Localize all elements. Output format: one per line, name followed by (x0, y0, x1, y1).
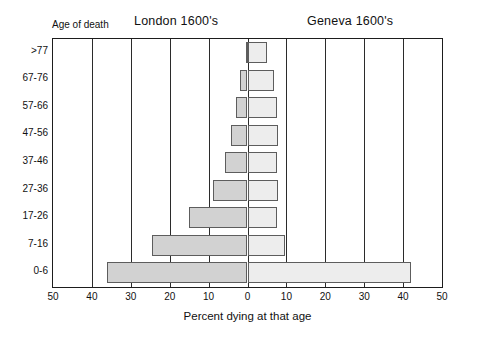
y-tick-label: 7-16 (4, 238, 48, 249)
plot-area (52, 38, 443, 288)
bar-london-57-66 (236, 97, 248, 118)
bar-row (53, 67, 442, 95)
bar-row (53, 149, 442, 177)
bar-geneva-67-76 (248, 70, 274, 91)
bar-row (53, 39, 442, 67)
bar-geneva-57-66 (248, 97, 277, 118)
x-tick-label: 50 (436, 291, 447, 302)
y-tick-label: 57-66 (4, 100, 48, 111)
y-tick-label: 67-76 (4, 72, 48, 83)
x-tick-label: 50 (47, 291, 58, 302)
bar-london-7-16 (152, 235, 247, 256)
bar-geneva->77 (248, 42, 267, 63)
y-tick-label: 47-56 (4, 127, 48, 138)
population-pyramid-chart: London 1600's Geneva 1600's Age of death… (0, 0, 495, 338)
x-axis-tick-labels: 504030201001020304050 (52, 291, 443, 307)
bar-geneva-27-36 (248, 180, 278, 201)
y-tick-label: >77 (4, 45, 48, 56)
x-tick-label: 30 (125, 291, 136, 302)
bar-geneva-0-6 (248, 262, 411, 283)
x-axis-title: Percent dying at that age (0, 310, 495, 322)
y-tick-label: 0-6 (4, 265, 48, 276)
y-axis-title: Age of death (52, 19, 109, 30)
x-tick-label: 30 (359, 291, 370, 302)
x-tick-label: 40 (398, 291, 409, 302)
y-tick-label: 17-26 (4, 210, 48, 221)
bar-geneva-7-16 (248, 235, 285, 256)
bar-row (53, 177, 442, 205)
x-tick-label: 10 (203, 291, 214, 302)
y-tick-label: 37-46 (4, 155, 48, 166)
y-tick-label: 27-36 (4, 183, 48, 194)
bar-london-47-56 (231, 125, 247, 146)
bar-row (53, 259, 442, 287)
bar-geneva-47-56 (248, 125, 278, 146)
y-axis-tick-labels: >7767-7657-6647-5637-4627-3617-267-160-6 (0, 38, 48, 288)
bar-row (53, 204, 442, 232)
bar-geneva-17-26 (248, 207, 278, 228)
bar-row (53, 232, 442, 260)
left-panel-title: London 1600's (134, 14, 218, 28)
x-tick-label: 20 (320, 291, 331, 302)
bar-row (53, 122, 442, 150)
bar-london-37-46 (225, 152, 248, 173)
bar-london-0-6 (107, 262, 247, 283)
bar-london-17-26 (189, 207, 247, 228)
bar-london-67-76 (240, 70, 247, 91)
x-tick-label: 10 (281, 291, 292, 302)
bar-row (53, 94, 442, 122)
bar-london-27-36 (213, 180, 247, 201)
x-tick-label: 20 (164, 291, 175, 302)
x-tick-label: 40 (86, 291, 97, 302)
bar-geneva-37-46 (248, 152, 278, 173)
x-tick-label: 0 (245, 291, 251, 302)
right-panel-title: Geneva 1600's (307, 14, 393, 28)
